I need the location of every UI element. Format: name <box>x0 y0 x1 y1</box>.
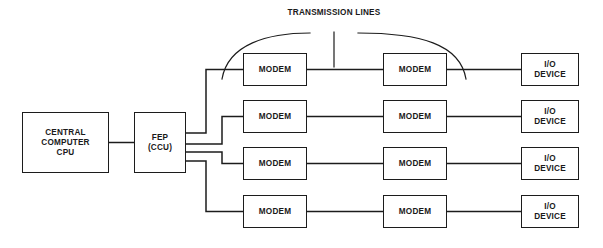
modem-label: MODEM <box>399 65 431 75</box>
fep-label-line1: FEP <box>152 133 169 143</box>
network-block-diagram: TRANSMISSION LINES CENTRAL COMPUTER CPU … <box>0 0 603 248</box>
modem-far-row1[interactable]: MODEM <box>383 53 447 86</box>
transmission-lines-label-line2: LINES <box>355 8 380 17</box>
modem-near-row1[interactable]: MODEM <box>243 53 307 86</box>
modem-far-row4[interactable]: MODEM <box>383 195 447 228</box>
modem-near-row3[interactable]: MODEM <box>243 147 307 180</box>
modem-label: MODEM <box>399 159 431 169</box>
modem-label: MODEM <box>259 65 291 75</box>
modem-near-row2[interactable]: MODEM <box>243 100 307 133</box>
io-device-label-line1: I/O <box>544 202 556 212</box>
io-device-row3[interactable]: I/O DEVICE <box>521 147 579 180</box>
modem-near-row4[interactable]: MODEM <box>243 195 307 228</box>
io-device-row4[interactable]: I/O DEVICE <box>521 195 579 228</box>
io-device-label-line1: I/O <box>544 60 556 70</box>
modem-label: MODEM <box>259 207 291 217</box>
fep-ccu-node[interactable]: FEP (CCU) <box>134 112 186 173</box>
modem-label: MODEM <box>399 112 431 122</box>
io-device-label-line2: DEVICE <box>534 212 566 222</box>
transmission-lines-label-line1: TRANSMISSION <box>288 8 353 17</box>
io-device-label-line1: I/O <box>544 154 556 164</box>
transmission-lines-label: TRANSMISSION LINES <box>286 8 382 18</box>
cpu-label-line3: CPU <box>57 148 75 158</box>
link-fep-to-modem-row1 <box>186 70 243 134</box>
io-device-label-line2: DEVICE <box>534 164 566 174</box>
link-fep-to-modem-row2 <box>186 117 243 145</box>
io-device-row1[interactable]: I/O DEVICE <box>521 53 579 86</box>
fep-label-line2: (CCU) <box>148 143 172 153</box>
modem-label: MODEM <box>399 207 431 217</box>
modem-far-row3[interactable]: MODEM <box>383 147 447 180</box>
modem-far-row2[interactable]: MODEM <box>383 100 447 133</box>
io-device-label-line1: I/O <box>544 107 556 117</box>
link-fep-to-modem-row3 <box>186 152 243 164</box>
link-fep-to-modem-row4 <box>186 161 243 212</box>
central-computer-cpu-node[interactable]: CENTRAL COMPUTER CPU <box>22 112 109 173</box>
io-device-label-line2: DEVICE <box>534 70 566 80</box>
io-device-row2[interactable]: I/O DEVICE <box>521 100 579 133</box>
cpu-label-line2: COMPUTER <box>41 138 89 148</box>
modem-label: MODEM <box>259 112 291 122</box>
modem-label: MODEM <box>259 159 291 169</box>
cpu-label-line1: CENTRAL <box>45 128 86 138</box>
io-device-label-line2: DEVICE <box>534 117 566 127</box>
